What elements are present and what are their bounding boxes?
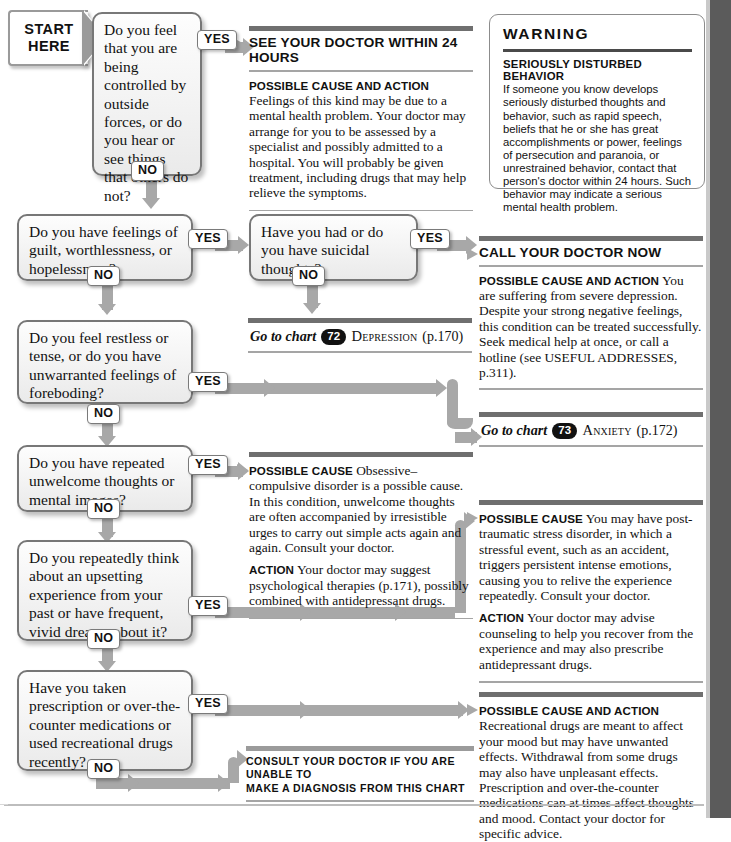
panel-action-lead-4: Action — [479, 611, 524, 624]
q3-yes-tab[interactable]: YES — [410, 229, 450, 249]
q7-no-tab[interactable]: NO — [87, 759, 120, 779]
q4-yes-tab[interactable]: YES — [188, 372, 228, 392]
panel-pointer-icon-2 — [467, 248, 478, 260]
connector-q4-yes-h1 — [215, 383, 440, 394]
gtc-page-72: (p.170) — [422, 329, 463, 345]
panel-lead-5: Possible cause and action — [479, 704, 659, 717]
question-box-4[interactable]: Do you feel restless or tense, or do you… — [17, 320, 193, 404]
q6-no-label: NO — [94, 631, 113, 645]
warning-body: If someone you know develops seriously d… — [503, 83, 692, 214]
q5-no-label: NO — [94, 501, 113, 515]
q1-yes-tab[interactable]: YES — [197, 30, 237, 50]
consult-line1: Consult your doctor if you are unable to — [246, 755, 474, 782]
gtc-rule-73 — [479, 445, 703, 447]
panel-pointer-icon-4 — [467, 512, 478, 524]
page-edge-dark — [710, 0, 731, 818]
q3-no-label: NO — [299, 268, 318, 282]
start-line2: HERE — [28, 38, 70, 55]
q5-yes-label: YES — [195, 457, 221, 471]
arrow-q7-mid — [300, 701, 311, 719]
panel-body-2: Possible cause and action You are suffer… — [479, 273, 703, 381]
q2-no-label: NO — [94, 268, 113, 282]
panel-bar-5 — [479, 692, 703, 697]
panel-bar-2 — [479, 236, 703, 241]
q1-no-tab[interactable]: NO — [131, 161, 164, 181]
start-line1: START — [24, 21, 73, 38]
panel-lead-3: Possible cause — [249, 464, 353, 477]
panel-body-4: Possible cause You may have post-traumat… — [479, 511, 703, 603]
q4-no-tab[interactable]: NO — [87, 404, 120, 424]
panel-ocd: Possible cause Obsessive–compulsive diso… — [249, 452, 473, 619]
go-to-chart-73[interactable]: Go to chart 73 Anxiety (p.172) — [479, 412, 703, 447]
question-box-6[interactable]: Do you repeatedly think about an upsetti… — [17, 540, 193, 641]
q4-no-label: NO — [94, 406, 113, 420]
question-box-1[interactable]: Do you feel that you are being controlle… — [92, 12, 202, 176]
q2-yes-tab[interactable]: YES — [188, 229, 228, 249]
panel-text: Feelings of this kind may be due to a me… — [249, 93, 466, 200]
panel-pointer-icon — [237, 40, 248, 52]
panel-drugs: Possible cause and action Recreational d… — [479, 692, 703, 842]
connector-q4-corner2 — [447, 418, 473, 429]
panel-action-lead-3: Action — [249, 563, 294, 576]
panel-call-doctor-now: CALL YOUR DOCTOR NOW Possible cause and … — [479, 236, 703, 390]
q1-no-label: NO — [138, 163, 157, 177]
arrow-q4-yes-mid2 — [436, 379, 447, 397]
q6-yes-tab[interactable]: YES — [188, 596, 228, 616]
q5-no-tab[interactable]: NO — [87, 499, 120, 519]
arrow-q2-no — [98, 304, 116, 315]
panel-see-doctor-24h: SEE YOUR DOCTOR WITHIN 24 HOURS Possible… — [249, 26, 473, 211]
panel-ptsd: Possible cause You may have post-traumat… — [479, 500, 703, 683]
panel-rule-top — [249, 70, 473, 72]
panel-heading-2: CALL YOUR DOCTOR NOW — [479, 245, 703, 260]
panel-pointer-icon-5 — [467, 704, 478, 716]
arrow-q4-yes-mid — [264, 379, 275, 397]
panel-rule-bottom-2 — [479, 388, 703, 390]
gtc-number-73: 73 — [552, 423, 577, 439]
connector-q7-yes-h — [215, 705, 463, 716]
panel-body-5: Possible cause and action Recreational d… — [479, 703, 703, 842]
q7-no-label: NO — [94, 761, 113, 775]
q5-yes-tab[interactable]: YES — [188, 455, 228, 475]
page-bottom-rule-tail — [0, 804, 8, 805]
q7-yes-label: YES — [195, 696, 221, 710]
consult-doctor-footer: Consult your doctor if you are unable to… — [246, 746, 474, 802]
panel-action-3: Action Your doctor may suggest psycholog… — [249, 562, 473, 608]
consult-line2: make a diagnosis from this chart — [246, 782, 474, 795]
go-to-chart-72[interactable]: Go to chart 72 Depression (p.170) — [248, 318, 472, 353]
page-bottom-rule — [4, 804, 704, 806]
gtc-bar-72 — [248, 318, 472, 323]
gtc-label-73: Go to chart — [481, 422, 547, 439]
question-4-text: Do you feel restless or tense, or do you… — [29, 329, 176, 401]
question-7-text: Have you taken prescription or over-the-… — [29, 679, 180, 770]
warning-bar — [503, 49, 692, 52]
panel-heading: SEE YOUR DOCTOR WITHIN 24 HOURS — [249, 35, 473, 65]
panel-rule-top-2 — [479, 265, 703, 267]
consult-bar — [246, 746, 474, 751]
panel-action-4: Action Your doctor may advise counseling… — [479, 610, 703, 672]
gtc-line-73: Go to chart 73 Anxiety (p.172) — [479, 422, 703, 439]
question-box-3[interactable]: Have you had or do you have suicidal tho… — [249, 214, 418, 281]
panel-bar-3 — [249, 452, 473, 457]
panel-lead: Possible cause and action — [249, 79, 429, 92]
arrow-q1-no — [142, 198, 160, 209]
connector-q7-no-h — [96, 778, 230, 789]
panel-text-5: Recreational drugs are meant to affect y… — [479, 718, 694, 841]
q7-yes-tab[interactable]: YES — [188, 694, 228, 714]
q2-no-tab[interactable]: NO — [87, 266, 120, 286]
arrow-q3-no — [303, 303, 321, 314]
question-box-7[interactable]: Have you taken prescription or over-the-… — [17, 670, 193, 771]
panel-body: Possible cause and action Feelings of th… — [249, 78, 473, 201]
gtc-number-72: 72 — [321, 329, 346, 345]
q6-yes-label: YES — [195, 598, 221, 612]
gtc-name-72: Depression — [351, 328, 417, 345]
arrow-q2-yes — [238, 236, 249, 254]
question-6-text: Do you repeatedly think about an upsetti… — [29, 549, 179, 640]
q6-no-tab[interactable]: NO — [87, 629, 120, 649]
q1-yes-label: YES — [204, 32, 230, 46]
panel-rule-bottom — [249, 210, 473, 212]
gtc-rule-72 — [248, 351, 472, 353]
panel-rule-4 — [479, 681, 703, 683]
gtc-bar-73 — [479, 412, 703, 417]
panel-rule-3 — [249, 618, 473, 620]
q3-no-tab[interactable]: NO — [292, 266, 325, 286]
